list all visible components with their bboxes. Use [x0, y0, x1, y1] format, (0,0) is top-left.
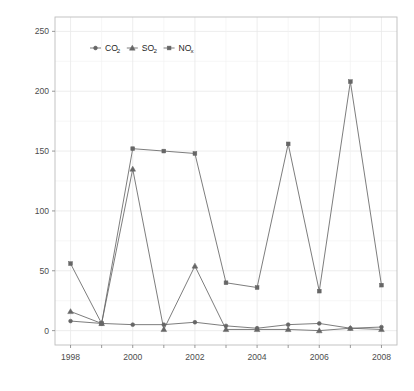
y-axis-tick-label: 250 [35, 26, 50, 36]
legend-label-subscript-CO2: 2 [117, 47, 121, 54]
data-point-square [380, 283, 384, 287]
data-point-square [162, 149, 166, 153]
data-point-square [167, 46, 171, 50]
x-axis-tick-label: 1998 [61, 352, 80, 362]
data-point-square [131, 147, 135, 151]
y-axis-tick-label: 0 [44, 326, 49, 336]
data-point-square [193, 152, 197, 156]
x-axis-tick-label: 2008 [372, 352, 391, 362]
y-axis: 050100150200250 [35, 26, 55, 335]
data-point-square [100, 322, 104, 326]
data-point-square [69, 262, 73, 266]
data-point-square [286, 142, 290, 146]
x-axis-tick-label: 2000 [123, 352, 142, 362]
data-point-circle [286, 323, 290, 327]
legend-label-subscript-SO2: 2 [154, 47, 158, 54]
x-axis-tick-label: 2002 [185, 352, 204, 362]
data-point-square [317, 289, 321, 293]
x-axis: 199820002002200420062008 [61, 345, 391, 362]
data-point-square [255, 286, 259, 290]
y-axis-tick-label: 100 [35, 206, 50, 216]
legend[interactable]: CO2SO2NOx [90, 43, 194, 54]
data-point-circle [317, 322, 321, 326]
data-point-circle [131, 323, 135, 327]
data-point-circle [193, 320, 197, 324]
plot-area: 050100150200250199820002002200420062008C… [0, 0, 414, 391]
y-axis-tick-label: 200 [35, 86, 50, 96]
x-axis-tick-label: 2006 [310, 352, 329, 362]
x-axis-tick-label: 2004 [248, 352, 267, 362]
data-point-square [224, 281, 228, 285]
line-chart: Bad output increase (%) 0501001502002501… [0, 0, 414, 391]
y-axis-tick-label: 150 [35, 146, 50, 156]
y-axis-tick-label: 50 [39, 266, 49, 276]
data-point-square [348, 80, 352, 84]
data-point-circle [94, 46, 98, 50]
data-point-circle [69, 319, 73, 323]
